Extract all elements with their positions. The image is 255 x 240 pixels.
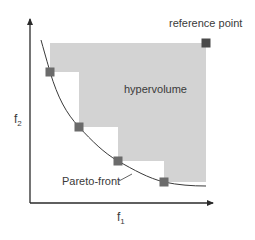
- pareto-front-leader: [119, 174, 132, 181]
- pareto-front-label: Pareto-front: [62, 176, 120, 187]
- pareto-point: [160, 178, 169, 187]
- reference-point-marker: [202, 39, 211, 48]
- pareto-point: [114, 157, 123, 166]
- reference-point-label: reference point: [169, 18, 242, 29]
- hypervolume-label: hypervolume: [124, 84, 187, 95]
- y-axis-label-sub: 2: [17, 119, 21, 128]
- y-axis-label: f2: [14, 113, 22, 128]
- x-axis-label-sub: 1: [120, 217, 124, 226]
- hypervolume-diagram: [0, 0, 255, 240]
- hypervolume-region: [50, 43, 206, 182]
- pareto-point: [46, 68, 55, 77]
- x-axis-label: f1: [117, 211, 125, 226]
- pareto-point: [75, 123, 84, 132]
